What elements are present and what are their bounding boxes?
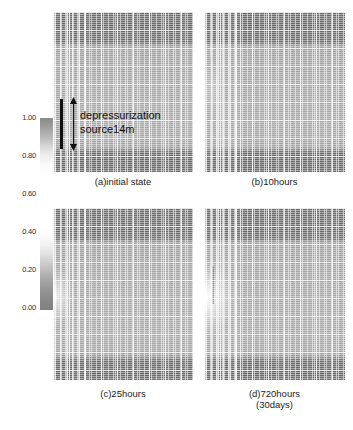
depressurization-source-annotation: depressurization source14m: [56, 96, 191, 154]
panel-b-mesh-coarse: [204, 12, 345, 172]
colorbar-tick-3: 0.60: [4, 189, 36, 198]
panel-b-caption: (b)10hours: [204, 176, 345, 187]
annotation-label: depressurization source14m: [80, 108, 192, 136]
panel-c-25hours: [53, 208, 193, 380]
colorbar-tick-6: 0.00: [4, 303, 36, 312]
saturation-colorbar: 1.00 0.80 0.60 0.40 0.20 0.00: [8, 118, 54, 310]
panel-d-caption: (d)720hours (30days): [204, 388, 345, 410]
annotation-vertical-bar: [60, 99, 63, 149]
colorbar-tick-4: 0.40: [4, 227, 36, 236]
figure-canvas: 1.00 0.80 0.60 0.40 0.20 0.00 (a)initial…: [0, 0, 353, 430]
colorbar-tick-2: 0.80: [4, 151, 36, 160]
panel-c-mesh-coarse: [53, 208, 193, 380]
panel-c-caption: (c)25hours: [53, 388, 193, 399]
panel-d-mesh-coarse: [204, 208, 345, 380]
colorbar-gradient: [40, 118, 54, 310]
colorbar-tick-1: 1.00: [4, 113, 36, 122]
panel-d-720hours: [204, 208, 345, 380]
double-arrow-icon: [68, 97, 79, 151]
panel-b-10hours: [204, 12, 345, 172]
panel-a-caption: (a)initial state: [53, 176, 193, 187]
colorbar-tick-5: 0.20: [4, 265, 36, 274]
